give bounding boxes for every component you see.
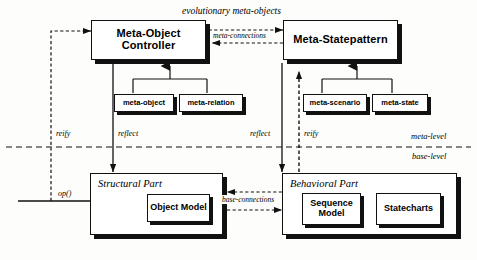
behavioral-part-label: Behavioral Part bbox=[290, 178, 358, 189]
meta-object-controller-label: Meta-Object Controller bbox=[92, 21, 205, 59]
meta-scenario-label: meta-scenario bbox=[304, 95, 366, 111]
object-model-box[interactable]: Object Model bbox=[147, 194, 210, 222]
meta-level-label: meta-level bbox=[411, 131, 446, 141]
meta-scenario-box[interactable]: meta-scenario bbox=[303, 94, 367, 112]
statecharts-box[interactable]: Statecharts bbox=[376, 193, 441, 225]
meta-relation-label: meta-relation bbox=[180, 95, 242, 111]
meta-object-controller-box[interactable]: Meta-Object Controller bbox=[91, 20, 206, 60]
base-level-label: base-level bbox=[412, 151, 446, 161]
object-model-label: Object Model bbox=[148, 195, 209, 221]
diagram-canvas: Meta-Object Controller Meta-Statepattern… bbox=[0, 0, 477, 260]
meta-statepattern-label: Meta-Statepattern bbox=[284, 21, 397, 59]
structural-part-label: Structural Part bbox=[98, 178, 162, 189]
aggregation-right bbox=[322, 66, 392, 93]
aggregation-left bbox=[133, 66, 207, 93]
meta-connections-label: meta-connections bbox=[212, 31, 267, 40]
meta-object-box[interactable]: meta-object bbox=[114, 94, 174, 112]
meta-statepattern-box[interactable]: Meta-Statepattern bbox=[283, 20, 398, 60]
sequence-model-label: Sequence Model bbox=[303, 194, 360, 224]
sequence-model-box[interactable]: Sequence Model bbox=[302, 193, 361, 225]
reify-left-arrow bbox=[51, 31, 91, 201]
base-connections-label: base-connections bbox=[221, 195, 275, 204]
meta-state-box[interactable]: meta-state bbox=[372, 94, 428, 112]
statecharts-label: Statecharts bbox=[377, 194, 440, 224]
reflect-right-label: reflect bbox=[250, 129, 270, 138]
operation-call-label: op() bbox=[58, 189, 71, 198]
reify-left-label: reify bbox=[56, 129, 70, 138]
meta-state-label: meta-state bbox=[373, 95, 427, 111]
meta-object-label: meta-object bbox=[115, 95, 173, 111]
meta-relation-box[interactable]: meta-relation bbox=[179, 94, 243, 112]
reflect-left-label: reflect bbox=[118, 129, 138, 138]
reify-right-label: reify bbox=[304, 129, 318, 138]
title-annotation: evolutionary meta-objects bbox=[182, 6, 281, 16]
